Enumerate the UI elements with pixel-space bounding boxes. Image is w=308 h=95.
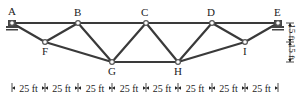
member-IE [245,23,278,42]
node-labels: ABCDEFGHI [8,5,281,77]
joint-D [210,21,215,26]
member-DI [212,23,245,42]
node-label-H: H [174,65,182,77]
node-label-F: F [42,45,48,57]
dimension-label-horizontal: 25 ft [153,83,172,94]
member-CH [146,23,178,62]
node-label-B: B [74,6,81,18]
dimension-label-horizontal: 25 ft [219,83,238,94]
node-label-C: C [141,6,148,18]
node-label-E: E [274,6,281,18]
joint-I [243,40,248,45]
joint-G [110,60,115,65]
node-label-D: D [207,6,215,18]
joint-H [176,60,181,65]
member-FB [45,23,78,42]
node-label-G: G [108,65,116,77]
dimension-label-horizontal: 25 ft [86,83,105,94]
member-GC [112,23,146,62]
vertical-dimensions: 15 ft15 ft [286,23,297,62]
dimension-label-horizontal: 25 ft [186,83,205,94]
dimension-label-horizontal: 25 ft [52,83,71,94]
dimension-label-horizontal: 25 ft [120,83,139,94]
dimension-label-horizontal: 25 ft [252,83,271,94]
dimension-label-horizontal: 25 ft [19,83,38,94]
node-label-I: I [243,45,247,57]
truss-members [12,23,278,62]
joint-E [276,21,281,26]
joint-C [144,21,149,26]
node-label-A: A [8,5,16,17]
horizontal-dimensions: 25 ft25 ft25 ft25 ft25 ft25 ft25 ft25 ft [12,83,278,94]
dimension-label-vertical: 15 ft [287,24,297,41]
truss-diagram: ABCDEFGHI 25 ft25 ft25 ft25 ft25 ft25 ft… [0,0,308,95]
joint-F [43,40,48,45]
member-AF [12,23,45,42]
joint-A [10,21,15,26]
joint-B [76,21,81,26]
dimension-label-vertical: 15 ft [287,44,297,61]
